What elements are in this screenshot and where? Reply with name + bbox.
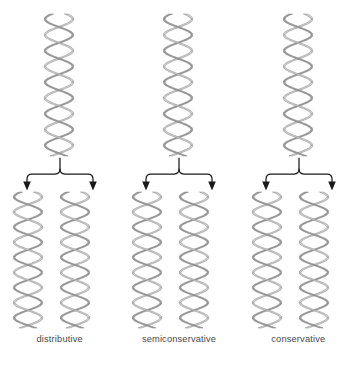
model-label-distributive: distributive xyxy=(0,333,119,345)
strand-light-front-segment xyxy=(184,14,193,19)
strand-dark-front-segment xyxy=(283,82,312,98)
helix-svg xyxy=(42,14,76,156)
strand-dark-front-segment xyxy=(164,82,193,98)
arrow-head-left-icon xyxy=(23,182,31,191)
strand-dark-front-segment xyxy=(44,82,73,98)
bracket-svg xyxy=(134,158,224,192)
strand-light-front-segment xyxy=(33,192,42,197)
bracket-svg xyxy=(15,158,105,192)
strand-light-front-segment xyxy=(272,192,281,197)
arrow-head-right-icon xyxy=(209,182,217,191)
helix-svg xyxy=(11,192,45,328)
helix-strands xyxy=(60,192,89,328)
strand-dark-back-segment xyxy=(13,192,22,197)
arrow-head-right-icon xyxy=(328,182,336,191)
parent-double-helix xyxy=(42,14,76,156)
replication-split-bracket xyxy=(254,158,344,192)
strand-dark-back-segment xyxy=(60,192,69,197)
model-column-semiconservative: semiconservative xyxy=(119,0,238,370)
strand-dark-back-segment xyxy=(299,192,308,197)
strand-light-front-segment xyxy=(64,14,73,19)
strand-light-front-segment xyxy=(303,14,312,19)
strand-dark-back-segment xyxy=(252,192,261,197)
helix-strands xyxy=(133,192,162,328)
bracket-path-left xyxy=(146,158,179,182)
replication-split-bracket xyxy=(134,158,224,192)
helix-svg xyxy=(250,192,284,328)
daughter-double-helix-left xyxy=(250,192,284,328)
bracket-path-right xyxy=(60,169,93,182)
model-label-semiconservative: semiconservative xyxy=(119,333,238,345)
strand-dark-back-segment xyxy=(164,14,173,19)
replication-split-bracket xyxy=(15,158,105,192)
helix-strands xyxy=(283,14,312,156)
bracket-path-right xyxy=(179,169,212,182)
model-column-conservative: conservative xyxy=(239,0,358,370)
strand-dark-back-segment xyxy=(44,14,53,19)
bracket-svg xyxy=(254,158,344,192)
strand-dark-front-segment xyxy=(164,51,193,67)
arrow-head-right-icon xyxy=(89,182,97,191)
daughter-double-helix-right xyxy=(177,192,211,328)
helix-strands xyxy=(13,192,42,328)
daughter-double-helix-left xyxy=(11,192,45,328)
dna-replication-figure: distributive semiconse xyxy=(0,0,358,370)
strand-dark-front-segment xyxy=(44,51,73,67)
model-label-conservative: conservative xyxy=(239,333,358,345)
model-column-distributive: distributive xyxy=(0,0,119,370)
strand-dark-back-segment xyxy=(283,14,292,19)
helix-strands xyxy=(252,192,281,328)
bracket-path-left xyxy=(27,158,60,182)
helix-svg xyxy=(297,192,331,328)
helix-svg xyxy=(177,192,211,328)
arrow-head-left-icon xyxy=(262,182,270,191)
helix-svg xyxy=(281,14,315,156)
daughter-double-helix-left xyxy=(130,192,164,328)
strand-dark-back-segment xyxy=(180,192,189,197)
helix-strands xyxy=(299,192,328,328)
parent-double-helix xyxy=(161,14,195,156)
strand-light-front-segment xyxy=(319,192,328,197)
helix-strands xyxy=(164,14,193,156)
helix-svg xyxy=(161,14,195,156)
daughter-double-helix-right xyxy=(58,192,92,328)
parent-double-helix xyxy=(281,14,315,156)
helix-strands xyxy=(180,192,209,328)
bracket-path-right xyxy=(299,169,332,182)
helix-svg xyxy=(130,192,164,328)
bracket-path-left xyxy=(266,158,299,182)
strand-dark-front-segment xyxy=(283,51,312,67)
helix-strands xyxy=(44,14,73,156)
strand-light-front-segment xyxy=(153,192,162,197)
arrow-head-left-icon xyxy=(143,182,151,191)
strand-dark-back-segment xyxy=(133,192,142,197)
strand-light-front-segment xyxy=(80,192,89,197)
daughter-double-helix-right xyxy=(297,192,331,328)
helix-svg xyxy=(58,192,92,328)
strand-light-front-segment xyxy=(200,192,209,197)
